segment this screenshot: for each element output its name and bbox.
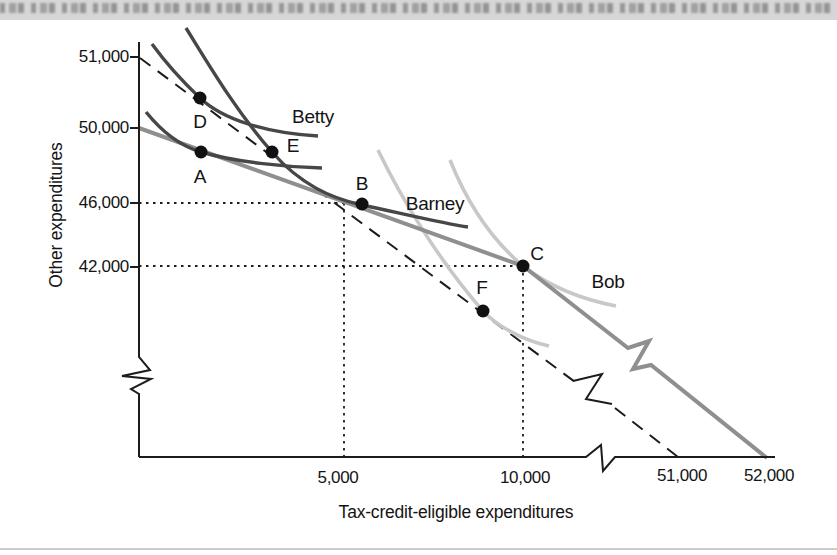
- x-axis-title: Tax-credit-eligible expenditures: [339, 502, 574, 523]
- y-axis-tick-marks: [130, 57, 139, 267]
- indifference-curve-chart: [0, 0, 837, 555]
- dashed-budget-line-lower: [615, 408, 678, 457]
- bob-curve-label: Bob: [592, 271, 625, 293]
- point-C-label: C: [530, 243, 543, 265]
- y-axis: [122, 42, 151, 457]
- guide-dotted-46000-5000: [139, 203, 344, 457]
- point-E-marker: [266, 146, 279, 159]
- x-tick-10000: 10,000: [500, 468, 550, 488]
- point-E-label: E: [287, 135, 299, 157]
- x-tick-5000: 5,000: [317, 468, 358, 488]
- x-tick-51000: 51,000: [657, 466, 707, 486]
- point-D-label: D: [193, 111, 206, 133]
- page-bottom-rule: [0, 548, 837, 550]
- textbook-figure-page: 51,000 50,000 46,000 42,000 5,000 10,000…: [0, 0, 837, 555]
- y-tick-46000: 46,000: [79, 193, 129, 213]
- dashed-budget-line-break: [573, 374, 612, 404]
- dashed-budget-line-upper: [140, 58, 575, 382]
- barney-curve-label: Barney: [406, 193, 464, 215]
- y-axis-title: Other expenditures: [46, 142, 67, 287]
- solid-budget-line: [139, 128, 767, 458]
- point-F-label: F: [476, 277, 487, 299]
- point-B-label: B: [356, 173, 368, 195]
- point-C-marker: [517, 260, 530, 273]
- x-tick-52000: 52,000: [744, 466, 794, 486]
- point-A-label: A: [194, 166, 206, 188]
- guide-dotted-42000-10000: [139, 266, 523, 457]
- point-D-marker: [194, 92, 207, 105]
- y-tick-51000: 51,000: [79, 47, 129, 67]
- betty-curve-label: Betty: [292, 106, 334, 128]
- point-A-marker: [195, 146, 208, 159]
- y-tick-50000: 50,000: [79, 118, 129, 138]
- y-tick-42000: 42,000: [79, 257, 129, 277]
- point-B-marker: [356, 198, 369, 211]
- point-F-marker: [477, 305, 490, 318]
